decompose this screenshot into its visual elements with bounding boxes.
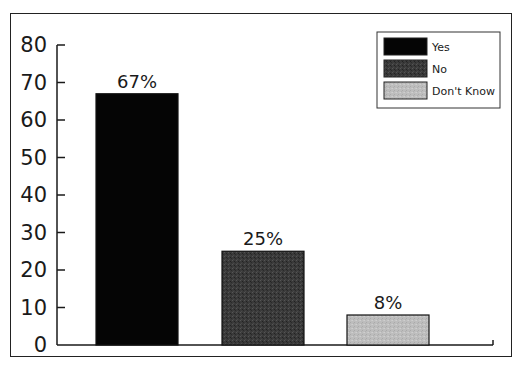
y-tick-label: 0 [34,333,47,357]
y-tick-label: 70 [20,71,47,95]
legend-swatch [384,82,427,99]
legend-swatch [384,60,427,77]
y-tick-label: 30 [20,221,47,245]
legend-label: Don't Know [432,85,495,98]
y-tick-label: 80 [20,33,47,57]
bars: 67%25%8% [96,71,429,345]
legend-swatch [384,38,427,55]
bar-chart: 01020304050607080 67%25%8% YesNoDon't Kn… [0,0,524,366]
y-tick-label: 50 [20,146,47,170]
legend: YesNoDon't Know [377,32,500,108]
bar-value-label: 25% [243,228,283,249]
bar-no [222,251,304,345]
bar-don-t-know [347,315,429,345]
bar-value-label: 67% [117,71,157,92]
bar-yes [96,94,178,345]
legend-label: No [432,63,447,76]
y-tick-label: 10 [20,296,47,320]
y-tick-label: 60 [20,108,47,132]
legend-label: Yes [431,41,450,54]
bar-value-label: 8% [374,292,403,313]
y-tick-label: 40 [20,183,47,207]
y-tick-label: 20 [20,258,47,282]
